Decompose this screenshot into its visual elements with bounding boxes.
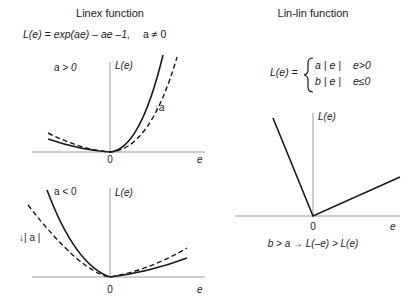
linlin-curve [273,118,400,216]
linex-formula: L(e) = exp(ae) – ae –1, [23,28,130,40]
linex-plot-negative-a: a < 0 L(e) 0 e ↓| a | [19,186,205,295]
linex-condition: a ≠ 0 [143,28,166,40]
linex-plot-positive-a: a > 0 L(e) 0 e ↓a [32,55,205,165]
y-axis-label: L(e) [115,60,133,71]
origin-label: 0 [107,284,113,295]
origin-label: 0 [310,221,316,232]
x-axis-label: e [390,221,396,232]
annotation-decrease-abs-a: ↓| a | [19,232,40,243]
case-label: a < 0 [54,186,77,197]
linlin-plot: L(e) 0 e b > a → L(–e) > L(e) [235,111,400,249]
linlin-caption: b > a → L(–e) > L(e) [268,238,359,249]
linex-curve-solid [47,190,187,277]
origin-label: 0 [107,154,113,165]
x-axis-label: e [197,284,203,295]
linlin-formula: L(e) = a | e | e>0 b | e | e≤0 [270,58,371,92]
y-axis-label: L(e) [115,187,133,198]
case2-condition: e≤0 [353,75,371,87]
brace-icon [304,58,313,92]
case1-expression: a | e | [315,59,341,71]
linex-title: Linex function [76,7,144,19]
case1-condition: e>0 [353,59,371,71]
linlin-title: Lin-lin function [278,7,349,19]
annotation-decrease-a: ↓a [154,102,165,113]
case-label: a > 0 [54,62,77,73]
y-axis-label: L(e) [318,111,336,122]
loss-functions-diagram: Linex function L(e) = exp(ae) – ae –1, a… [0,0,419,306]
linlin-formula-lhs: L(e) = [270,66,298,78]
x-axis-label: e [197,154,203,165]
case2-expression: b | e | [315,75,341,87]
